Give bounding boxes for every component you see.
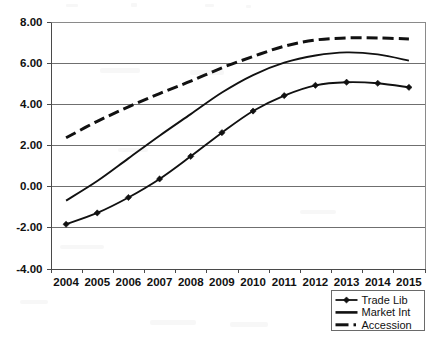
x-tick-label: 2004: [53, 276, 79, 288]
y-tick-label: 8.00: [20, 16, 42, 28]
x-tick-label: 2007: [147, 276, 173, 288]
legend-label: Trade Lib: [362, 294, 408, 306]
x-tick-label: 2013: [334, 276, 360, 288]
x-tick-label: 2010: [240, 276, 266, 288]
x-tick-label: 2014: [365, 276, 391, 288]
x-tick-label: 2009: [209, 276, 235, 288]
chart-legend[interactable]: Trade LibMarket IntAccession: [332, 291, 425, 331]
x-tick-label: 2008: [178, 276, 204, 288]
y-tick-label: 6.00: [20, 57, 42, 69]
y-tick-label: -4.00: [16, 263, 42, 275]
chart-canvas: 8.006.004.002.000.00-2.00-4.00 200420052…: [0, 0, 432, 338]
y-tick-label: -2.00: [16, 221, 42, 233]
legend-label: Accession: [362, 319, 412, 331]
x-tick-label: 2012: [303, 276, 329, 288]
x-tick-label: 2006: [116, 276, 142, 288]
y-tick-label: 4.00: [20, 98, 42, 110]
x-tick-label: 2005: [84, 276, 110, 288]
y-tick-label: 2.00: [20, 139, 42, 151]
legend-label: Market Int: [362, 306, 411, 318]
line-chart: 8.006.004.002.000.00-2.00-4.00 200420052…: [0, 0, 432, 338]
x-tick-label: 2011: [272, 276, 298, 288]
y-tick-label: 0.00: [20, 180, 42, 192]
x-tick-label: 2015: [396, 276, 422, 288]
